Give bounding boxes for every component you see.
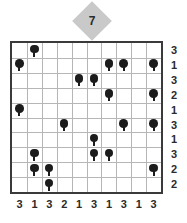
grid-cell[interactable]: [146, 103, 161, 118]
grid-cell[interactable]: [12, 147, 27, 162]
grid-cell[interactable]: [12, 118, 27, 133]
grid-cell[interactable]: [87, 118, 102, 133]
grid-cell[interactable]: [116, 132, 131, 147]
grid-cell[interactable]: [12, 43, 27, 58]
grid-cell[interactable]: [42, 73, 57, 88]
grid-cell[interactable]: [42, 147, 57, 162]
tree-icon: [72, 73, 87, 88]
grid-cell[interactable]: [72, 88, 87, 103]
grid-cell[interactable]: [101, 177, 116, 192]
column-clue: 3: [87, 197, 102, 211]
tree-icon: [87, 73, 102, 88]
puzzle-number-label: 7: [74, 3, 110, 39]
grid-cell[interactable]: [42, 118, 57, 133]
grid-cell[interactable]: [42, 88, 57, 103]
grid-cell[interactable]: [42, 58, 57, 73]
grid-cell[interactable]: [116, 147, 131, 162]
grid-cell[interactable]: [57, 162, 72, 177]
column-clue: 3: [42, 197, 57, 211]
grid-cell[interactable]: [146, 177, 161, 192]
grid-cell[interactable]: [12, 177, 27, 192]
grid-cell[interactable]: [12, 88, 27, 103]
grid-cell[interactable]: [72, 177, 87, 192]
grid-cell[interactable]: [116, 103, 131, 118]
grid-cell[interactable]: [131, 118, 146, 133]
tents-puzzle-board: 7 31321313223132131313: [0, 0, 187, 223]
grid-cell[interactable]: [57, 147, 72, 162]
grid-cell[interactable]: [42, 43, 57, 58]
grid-cell[interactable]: [27, 88, 42, 103]
tree-icon: [12, 103, 27, 118]
grid-cell[interactable]: [146, 43, 161, 58]
grid-cell[interactable]: [101, 43, 116, 58]
grid-cell[interactable]: [72, 43, 87, 58]
grid-cell[interactable]: [27, 132, 42, 147]
grid-cell[interactable]: [27, 58, 42, 73]
grid-cell[interactable]: [131, 177, 146, 192]
grid-cell[interactable]: [116, 88, 131, 103]
tree-icon: [57, 118, 72, 133]
grid-cell[interactable]: [131, 147, 146, 162]
tree-icon: [87, 147, 102, 162]
row-clue: 3: [167, 147, 181, 162]
grid-cell[interactable]: [116, 162, 131, 177]
tree-icon: [87, 132, 102, 147]
grid-cell[interactable]: [72, 162, 87, 177]
tree-icon: [27, 43, 42, 58]
grid-cell[interactable]: [42, 103, 57, 118]
grid-cell[interactable]: [57, 43, 72, 58]
grid-cell[interactable]: [57, 88, 72, 103]
grid-cell[interactable]: [72, 147, 87, 162]
grid-cell[interactable]: [146, 132, 161, 147]
grid-cell[interactable]: [116, 43, 131, 58]
grid-cell[interactable]: [131, 58, 146, 73]
grid-cell[interactable]: [131, 132, 146, 147]
grid-cell[interactable]: [101, 73, 116, 88]
grid-cell[interactable]: [57, 177, 72, 192]
grid-cell[interactable]: [87, 177, 102, 192]
grid-cell[interactable]: [12, 73, 27, 88]
grid-cell[interactable]: [12, 132, 27, 147]
grid-cell[interactable]: [116, 177, 131, 192]
row-clue: 2: [167, 177, 181, 192]
tree-icon: [12, 58, 27, 73]
grid-cell[interactable]: [146, 147, 161, 162]
grid-cell[interactable]: [57, 132, 72, 147]
puzzle-grid[interactable]: [10, 41, 163, 194]
tree-icon: [42, 177, 57, 192]
row-clue: 3: [167, 118, 181, 133]
grid-cell[interactable]: [101, 103, 116, 118]
grid-cell[interactable]: [131, 43, 146, 58]
grid-cell[interactable]: [146, 73, 161, 88]
grid-cell[interactable]: [72, 118, 87, 133]
grid-cell[interactable]: [27, 103, 42, 118]
grid-cell[interactable]: [101, 132, 116, 147]
column-clue: 3: [116, 197, 131, 211]
grid-cell[interactable]: [131, 103, 146, 118]
grid-cell[interactable]: [27, 118, 42, 133]
grid-cell[interactable]: [57, 58, 72, 73]
grid-cell[interactable]: [72, 132, 87, 147]
grid-cell[interactable]: [42, 132, 57, 147]
grid-cell[interactable]: [87, 103, 102, 118]
grid-cell[interactable]: [12, 162, 27, 177]
grid-cell[interactable]: [27, 73, 42, 88]
grid-cell[interactable]: [101, 162, 116, 177]
grid-cell[interactable]: [116, 73, 131, 88]
grid-cell[interactable]: [57, 103, 72, 118]
grid-cell[interactable]: [131, 162, 146, 177]
grid-cell[interactable]: [87, 43, 102, 58]
grid-cell[interactable]: [72, 58, 87, 73]
column-clue: 2: [57, 197, 72, 211]
grid-cell[interactable]: [57, 73, 72, 88]
grid-cell[interactable]: [27, 177, 42, 192]
grid-cell[interactable]: [72, 103, 87, 118]
grid-cell[interactable]: [87, 162, 102, 177]
row-clue: 1: [167, 103, 181, 118]
tree-icon: [146, 88, 161, 103]
grid-cell[interactable]: [87, 58, 102, 73]
grid-cell[interactable]: [101, 118, 116, 133]
grid-cell[interactable]: [131, 88, 146, 103]
grid-cell[interactable]: [87, 88, 102, 103]
grid-cell[interactable]: [131, 73, 146, 88]
